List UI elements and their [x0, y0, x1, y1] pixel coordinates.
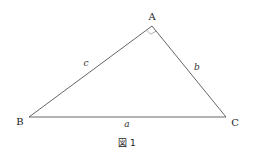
vertex-label-a: A [147, 11, 156, 22]
vertex-label-b: B [16, 116, 23, 127]
side-label-b: b [194, 62, 200, 72]
side-b-line [152, 26, 226, 117]
side-label-a: a [124, 119, 129, 129]
triangle-diagram: A B C c b a 図 1 [0, 0, 253, 155]
side-label-c: c [83, 58, 88, 68]
side-c-line [29, 26, 152, 117]
right-angle-mark [147, 30, 157, 34]
vertex-label-c: C [231, 117, 239, 128]
figure-caption: 図 1 [118, 138, 136, 148]
